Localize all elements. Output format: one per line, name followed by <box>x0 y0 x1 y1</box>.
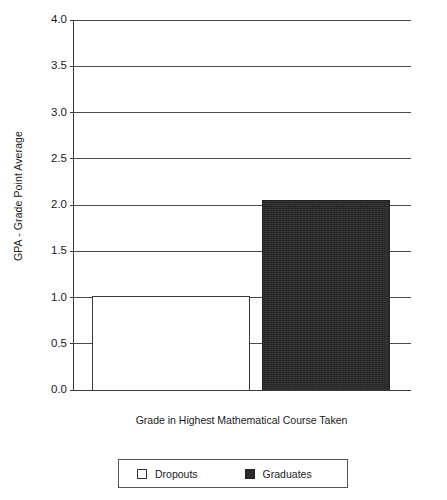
y-axis-tick-mark <box>70 66 74 67</box>
gridline <box>74 112 411 113</box>
legend-entry-graduates[interactable]: Graduates <box>245 468 312 480</box>
y-axis-tick-label: 0.0 <box>23 384 67 396</box>
y-axis-tick-mark <box>70 20 74 21</box>
gridline <box>74 66 411 67</box>
bar-texture <box>263 201 389 390</box>
chart-legend: DropoutsGraduates <box>118 459 348 488</box>
y-axis-tick-mark <box>70 343 74 344</box>
x-axis-title: Grade in Highest Mathematical Course Tak… <box>73 414 410 426</box>
y-axis-tick-label: 4.0 <box>23 14 67 26</box>
y-axis-tick-label: 1.0 <box>23 292 67 304</box>
legend-entry-dropouts[interactable]: Dropouts <box>137 468 198 480</box>
bar-dropouts <box>92 296 250 390</box>
y-axis-tick-mark <box>70 112 74 113</box>
y-axis-tick-label: 3.0 <box>23 107 67 119</box>
gridline <box>74 158 411 159</box>
y-axis-tick-label: 2.0 <box>23 199 67 211</box>
gridline <box>74 20 411 21</box>
legend-label: Graduates <box>263 468 312 480</box>
y-axis-tick-mark <box>70 158 74 159</box>
bar-chart-figure: GPA - Grade Point Average 4.03.53.02.52.… <box>0 0 447 500</box>
legend-swatch-graduates <box>245 469 255 479</box>
legend-swatch-dropouts <box>137 469 147 479</box>
y-axis-tick-mark <box>70 251 74 252</box>
plot-area: 4.03.53.02.52.01.51.00.50.0 <box>73 20 411 391</box>
bar-graduates <box>262 200 390 390</box>
y-axis-tick-mark <box>70 297 74 298</box>
y-axis-tick-mark <box>70 205 74 206</box>
y-axis-tick-label: 0.5 <box>23 338 67 350</box>
y-axis-tick-label: 1.5 <box>23 246 67 258</box>
legend-label: Dropouts <box>155 468 198 480</box>
y-axis-tick-label: 3.5 <box>23 61 67 73</box>
y-axis-tick-mark <box>70 390 74 391</box>
chart-title-sliver <box>120 0 330 5</box>
y-axis-tick-label: 2.5 <box>23 153 67 165</box>
